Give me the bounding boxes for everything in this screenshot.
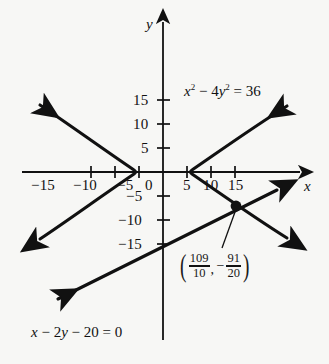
eq-line-equals: =	[103, 324, 111, 340]
point-y-numerator: 91	[226, 252, 241, 265]
intersection-point-marker	[231, 201, 242, 212]
hyperbola-equation-label: x2 − 4y2 = 36	[184, 84, 261, 99]
point-y-denominator: 20	[226, 267, 241, 280]
y-tick-label--15: −15	[118, 237, 142, 252]
x-tick-label--10: −10	[73, 178, 97, 193]
y-tick-label-5: 5	[141, 141, 149, 156]
point-x-denominator: 10	[192, 267, 207, 280]
eq-line-minus2: −	[72, 324, 80, 340]
point-open-paren: (	[180, 253, 186, 278]
point-x-numerator: 109	[189, 252, 210, 265]
eq-hyp-equals: =	[234, 83, 242, 99]
intersection-point-label: ( 109 10 , − 91 20 )	[178, 252, 252, 280]
x-axis-label: x	[304, 179, 311, 194]
y-tick-label-15: 15	[133, 93, 148, 108]
eq-line-y: y	[61, 324, 68, 340]
eq-hyp-exp1: 2	[191, 82, 196, 92]
eq-hyp-coeff: 4	[211, 83, 219, 99]
x-tick-label-0: 0	[145, 178, 153, 193]
eq-line-minus1: −	[41, 324, 49, 340]
eq-hyp-minus: −	[199, 83, 207, 99]
eq-hyp-rhs: 36	[246, 83, 261, 99]
point-close-paren: )	[243, 253, 249, 278]
eq-line-const: 20	[84, 324, 99, 340]
point-comma: ,	[211, 262, 215, 280]
x-tick-label-15: 15	[228, 178, 243, 193]
y-tick-label--5: −5	[126, 189, 142, 204]
y-tick-label--10: −10	[118, 213, 142, 228]
eq-line-x: x	[31, 324, 38, 340]
eq-line-rhs: 0	[115, 324, 123, 340]
point-x-fraction: 109 10	[189, 252, 210, 280]
point-y-fraction: 91 20	[226, 252, 241, 280]
line-equation-label: x − 2y − 20 = 0	[31, 325, 122, 340]
x-tick-label--15: −15	[31, 178, 55, 193]
eq-hyp-x: x	[184, 83, 191, 99]
x-tick-label-5: 5	[183, 178, 191, 193]
math-figure: −15 −10 −5 0 5 10 15 15 10 5 −5 −10 −15 …	[0, 0, 329, 364]
x-tick-label-10: 10	[203, 178, 218, 193]
y-axis-label: y	[146, 17, 153, 32]
eq-hyp-exp2: 2	[225, 82, 230, 92]
point-y-sign: −	[217, 258, 225, 274]
y-tick-label-10: 10	[133, 117, 148, 132]
